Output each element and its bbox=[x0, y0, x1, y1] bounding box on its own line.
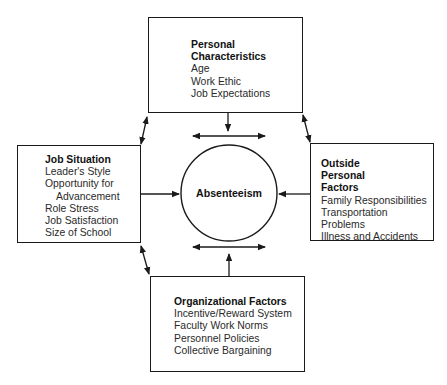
factor-item: Faculty Work Norms bbox=[174, 320, 292, 332]
factor-item: Role Stress bbox=[45, 203, 120, 215]
factor-item: Leader's Style bbox=[45, 166, 120, 178]
factor-item: Age bbox=[191, 63, 270, 75]
box-title-line: Factors bbox=[321, 182, 433, 194]
factor-item: Job Expectations bbox=[191, 88, 270, 100]
box-job-situation: Job Situation Leader's Style Opportunity… bbox=[17, 145, 141, 243]
factor-item: Illness and Accidents bbox=[321, 231, 433, 243]
factor-item: Personnel Policies bbox=[174, 333, 292, 345]
double-arrow-top-left bbox=[141, 117, 147, 144]
double-arrow-left-bottom bbox=[141, 246, 149, 274]
box-organizational-factors: Organizational Factors Incentive/Reward … bbox=[150, 276, 305, 372]
box-title-line: Characteristics bbox=[191, 51, 270, 63]
box-title-line: Organizational Factors bbox=[174, 296, 292, 308]
factor-item: Opportunity for bbox=[45, 178, 120, 190]
factor-item: Advancement bbox=[45, 191, 120, 203]
factor-item: Transportation Problems bbox=[321, 207, 433, 231]
factor-item: Job Satisfaction bbox=[45, 215, 120, 227]
double-arrow-top-right bbox=[303, 115, 310, 142]
factor-item: Collective Bargaining bbox=[174, 345, 292, 357]
factor-item: Incentive/Reward System bbox=[174, 308, 292, 320]
factor-item: Work Ethic bbox=[191, 76, 270, 88]
box-outside-personal-factors: Outside Personal Factors Family Responsi… bbox=[310, 143, 434, 241]
box-title-line: Personal bbox=[321, 170, 433, 182]
box-title-line: Outside bbox=[321, 158, 433, 170]
factor-item: Size of School bbox=[45, 227, 120, 239]
box-title-line: Job Situation bbox=[45, 154, 120, 166]
box-personal-characteristics: Personal Characteristics Age Work Ethic … bbox=[148, 17, 303, 113]
box-title-line: Personal bbox=[191, 39, 270, 51]
center-label: Absenteeism bbox=[181, 187, 277, 199]
factor-item: Family Responsibilities bbox=[321, 195, 433, 207]
